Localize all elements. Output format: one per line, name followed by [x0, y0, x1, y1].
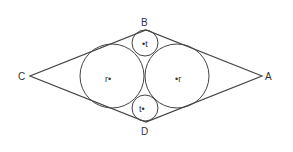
- left-large-circle: [80, 44, 144, 108]
- vertex-label-c: C: [18, 71, 25, 82]
- bottom-circle-radius-label: t•: [139, 104, 145, 114]
- left-circle-radius-label: r•: [105, 74, 111, 84]
- vertex-label-d: D: [141, 126, 148, 137]
- rhombus-circles-diagram: A B C D r• •r •t t•: [0, 0, 293, 152]
- vertex-label-a: A: [265, 71, 272, 82]
- right-circle-radius-label: •r: [175, 74, 181, 84]
- top-circle-radius-label: •t: [142, 39, 148, 49]
- bottom-small-circle: [132, 95, 158, 121]
- vertex-label-b: B: [141, 17, 148, 28]
